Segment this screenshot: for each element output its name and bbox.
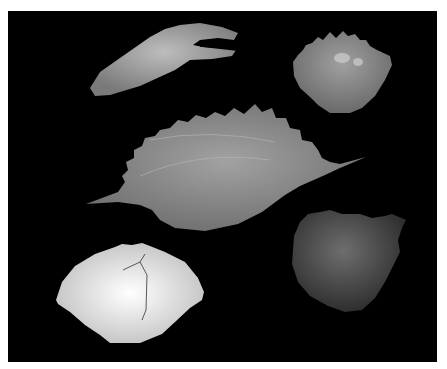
specimen-photo bbox=[0, 0, 447, 369]
small-spiny-carapace bbox=[293, 31, 392, 113]
claw-specimen bbox=[90, 23, 238, 96]
rough-dark-carapace bbox=[292, 210, 406, 312]
smooth-white-carapace bbox=[56, 243, 204, 343]
